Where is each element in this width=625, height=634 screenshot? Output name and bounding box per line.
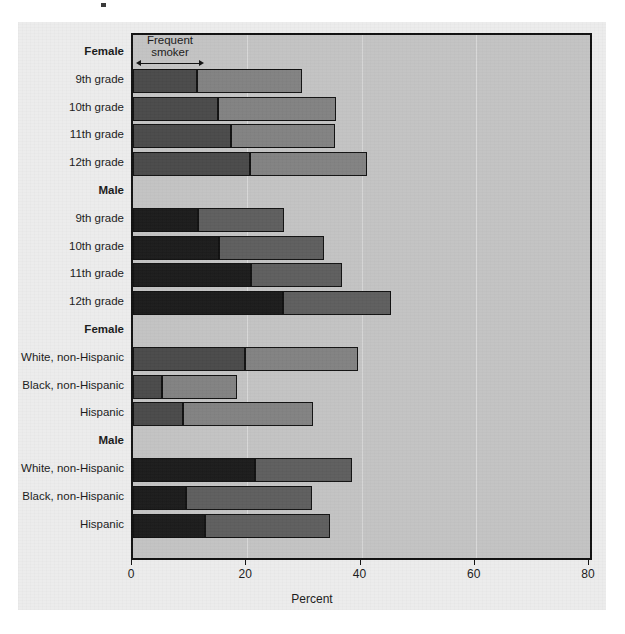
group-label-male: Male — [0, 184, 124, 196]
group-label-female: Female — [0, 45, 124, 57]
bar-segment-frequent-smoker — [133, 69, 197, 93]
x-tick-20 — [245, 558, 246, 565]
bar-segment-current-smoker — [197, 69, 302, 93]
bar-segment-current-smoker — [205, 514, 330, 538]
bar-segment-frequent-smoker — [133, 124, 231, 148]
category-label: 9th grade — [0, 73, 124, 85]
bar-row — [133, 152, 590, 176]
frequent-smoker-arrow — [136, 59, 204, 68]
bar-segment-current-smoker — [255, 458, 352, 482]
plot-area — [131, 33, 592, 560]
bar-row — [133, 402, 590, 426]
bar-row — [133, 375, 590, 399]
x-tick-label-80: 80 — [568, 567, 608, 581]
category-label: White, non-Hispanic — [0, 351, 124, 363]
arrow-head-right-icon — [199, 60, 204, 66]
category-label: Hispanic — [0, 518, 124, 530]
category-label: 12th grade — [0, 156, 124, 168]
bar-segment-current-smoker — [183, 402, 313, 426]
group-label-male: Male — [0, 434, 124, 446]
bar-row — [133, 263, 590, 287]
bar-segment-current-smoker — [231, 124, 336, 148]
scan-artifact — [101, 3, 106, 7]
bar-segment-current-smoker — [198, 208, 284, 232]
x-tick-0 — [131, 558, 132, 565]
bar-segment-frequent-smoker — [133, 97, 218, 121]
bar-segment-frequent-smoker — [133, 514, 205, 538]
category-label: Black, non-Hispanic — [0, 490, 124, 502]
x-tick-label-60: 60 — [454, 567, 494, 581]
bar-segment-current-smoker — [218, 97, 336, 121]
bar-row — [133, 347, 590, 371]
bar-segment-current-smoker — [186, 486, 312, 510]
bar-row — [133, 69, 590, 93]
frequent-smoker-annotation: Frequent smoker — [136, 34, 204, 68]
x-tick-60 — [474, 558, 475, 565]
bar-segment-current-smoker — [219, 236, 324, 260]
bar-segment-frequent-smoker — [133, 263, 251, 287]
bar-row — [133, 291, 590, 315]
category-label: 9th grade — [0, 212, 124, 224]
frequent-smoker-label: Frequent smoker — [136, 34, 204, 58]
bar-row — [133, 236, 590, 260]
category-label: 10th grade — [0, 240, 124, 252]
bar-segment-frequent-smoker — [133, 152, 250, 176]
bar-row — [133, 514, 590, 538]
category-label: Black, non-Hispanic — [0, 379, 124, 391]
chart-figure: Female9th grade10th grade11th grade12th … — [18, 22, 606, 610]
category-label: White, non-Hispanic — [0, 462, 124, 474]
bar-row — [133, 97, 590, 121]
category-label: 11th grade — [0, 267, 124, 279]
bar-segment-frequent-smoker — [133, 458, 255, 482]
bar-segment-frequent-smoker — [133, 291, 283, 315]
arrow-shaft — [138, 63, 202, 64]
bar-segment-current-smoker — [250, 152, 368, 176]
x-tick-label-0: 0 — [111, 567, 151, 581]
x-axis-title: Percent — [18, 592, 606, 606]
category-label: 12th grade — [0, 295, 124, 307]
bar-segment-current-smoker — [245, 347, 358, 371]
bar-segment-frequent-smoker — [133, 347, 245, 371]
x-tick-label-20: 20 — [225, 567, 265, 581]
bar-row — [133, 458, 590, 482]
bar-segment-frequent-smoker — [133, 236, 219, 260]
category-label: 10th grade — [0, 101, 124, 113]
bar-segment-current-smoker — [251, 263, 342, 287]
bar-segment-current-smoker — [283, 291, 391, 315]
bar-row — [133, 208, 590, 232]
bar-segment-frequent-smoker — [133, 402, 183, 426]
bar-segment-frequent-smoker — [133, 486, 186, 510]
bar-segment-current-smoker — [162, 375, 237, 399]
x-tick-80 — [588, 558, 589, 565]
bar-segment-frequent-smoker — [133, 208, 198, 232]
bar-segment-frequent-smoker — [133, 375, 162, 399]
x-tick-label-40: 40 — [340, 567, 380, 581]
x-tick-40 — [360, 558, 361, 565]
bar-row — [133, 486, 590, 510]
bar-row — [133, 124, 590, 148]
category-label: 11th grade — [0, 128, 124, 140]
group-label-female: Female — [0, 323, 124, 335]
category-label: Hispanic — [0, 406, 124, 418]
